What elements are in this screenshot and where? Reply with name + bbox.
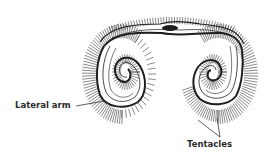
tentacle xyxy=(244,76,258,77)
tentacle xyxy=(200,19,201,26)
tentacle xyxy=(86,52,99,58)
tentacle xyxy=(215,80,219,88)
tentacle xyxy=(185,17,186,24)
tentacle xyxy=(139,20,141,27)
tentacle xyxy=(83,64,97,67)
tentacle xyxy=(140,99,146,105)
tentacle xyxy=(148,79,156,80)
tentacle xyxy=(140,43,146,49)
lateral-arm-label: Lateral arm xyxy=(15,100,71,110)
tentacles-leader-2 xyxy=(217,118,220,137)
tentacles-label: Tentacles xyxy=(187,139,232,149)
tentacle xyxy=(244,78,258,79)
tentacle xyxy=(135,36,139,43)
tentacle xyxy=(204,108,208,119)
tentacle xyxy=(132,107,135,114)
tentacle xyxy=(206,20,208,27)
tentacle xyxy=(148,68,156,69)
tentacle xyxy=(136,20,138,27)
tentacles-leader-1 xyxy=(198,120,220,137)
tentacle xyxy=(213,81,214,90)
tentacle xyxy=(211,21,213,28)
tentacle xyxy=(187,18,188,25)
tentacle xyxy=(120,110,121,124)
tentacle xyxy=(226,108,230,121)
tentacle xyxy=(190,18,191,25)
tentacle xyxy=(147,83,155,85)
left-arm-outline xyxy=(97,46,145,107)
tentacle xyxy=(242,86,255,91)
tentacle xyxy=(145,92,152,96)
tentacle xyxy=(243,64,257,67)
tentacle xyxy=(218,74,227,76)
tentacle xyxy=(134,20,136,27)
tentacle xyxy=(202,107,207,118)
tentacle xyxy=(117,110,119,124)
tentacle xyxy=(85,55,98,60)
tentacle xyxy=(143,96,149,101)
tentacle xyxy=(183,88,194,93)
tentacle xyxy=(198,19,199,26)
lateral-arm-leader xyxy=(76,101,104,106)
central-band-inner xyxy=(104,33,242,50)
tentacle xyxy=(138,39,143,45)
tentacle xyxy=(110,108,114,121)
tentacle xyxy=(143,47,149,52)
tentacle xyxy=(83,80,97,82)
tentacle xyxy=(82,78,96,79)
tentacle xyxy=(212,54,213,63)
tentacle xyxy=(220,110,221,124)
tentacle xyxy=(184,90,195,95)
tentacle xyxy=(145,52,152,56)
tentacle xyxy=(203,20,205,27)
tentacle xyxy=(129,109,131,117)
tentacle xyxy=(84,86,97,91)
tentacle xyxy=(207,80,211,88)
tentacle xyxy=(125,110,126,118)
tentacle xyxy=(147,63,155,65)
tentacle xyxy=(242,88,255,94)
tentacle xyxy=(229,25,232,32)
tentacle xyxy=(222,25,224,39)
tentacle xyxy=(244,80,258,82)
tentacle xyxy=(213,110,214,122)
tentacle xyxy=(218,69,227,71)
tentacle xyxy=(193,18,194,25)
tentacle xyxy=(135,105,139,112)
tentacle xyxy=(82,76,96,77)
tentacle xyxy=(185,92,195,98)
tentacle xyxy=(138,103,143,109)
tentacle xyxy=(82,67,96,69)
tentacle xyxy=(131,21,133,28)
tentacle xyxy=(244,67,258,69)
tentacle xyxy=(146,88,153,91)
mouth xyxy=(162,25,178,31)
tentacles-left-arm xyxy=(82,24,156,124)
tentacle xyxy=(221,110,223,124)
tentacle xyxy=(244,70,258,71)
tentacle xyxy=(242,55,255,60)
tentacle xyxy=(85,88,98,94)
lophophore-figure xyxy=(0,0,266,160)
tentacle xyxy=(146,57,153,60)
tentacle xyxy=(82,70,96,71)
tentacle xyxy=(195,18,196,25)
tentacle xyxy=(216,110,217,122)
tentacle xyxy=(212,81,213,90)
tentacle xyxy=(182,86,193,90)
tentacle xyxy=(182,17,183,24)
